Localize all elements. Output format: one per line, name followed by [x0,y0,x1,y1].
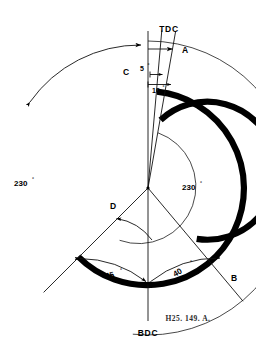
label-d: D [110,201,117,211]
label-c: C [123,67,130,77]
line-d [44,188,148,292]
degree-symbol-230-inner: ° [200,180,202,186]
degree-symbol-45: ° [120,267,122,273]
degree-symbol-10: ° [163,84,165,90]
degree-symbol-230-outer: ° [32,176,34,182]
outer-cam-arc [78,92,244,285]
label-230-outer: 230 [14,179,28,188]
hub-center [146,186,149,189]
label-bdc: BDC [138,328,159,338]
valve-timing-diagram: 5 ° 10 ° 45 ° 40 ° 230 ° 230 ° [0,0,256,353]
label-5-deg: 5 [140,65,144,72]
figure-caption: H25. 149. A. [166,314,211,323]
label-a: A [182,45,189,55]
label-b: B [231,273,238,283]
diagram-canvas: 5 ° 10 ° 45 ° 40 ° 230 ° 230 ° [0,0,256,353]
dimension-5-deg [150,72,163,78]
degree-symbol-40: ° [190,259,192,265]
label-230-inner: 230 [182,183,196,192]
line-c [148,30,162,188]
label-tdc: TDC [159,24,179,34]
label-10-deg: 10 [152,87,160,94]
degree-symbol-5: ° [148,62,150,68]
inner-sweep-arrow [117,219,153,241]
